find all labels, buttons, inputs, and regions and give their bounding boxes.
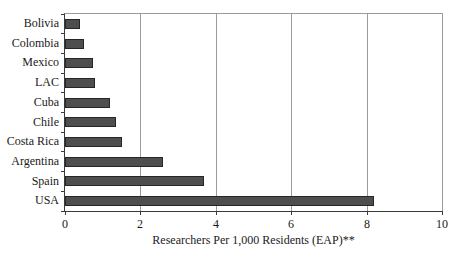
x-axis-tick-4 bbox=[216, 211, 217, 215]
bar-colombia bbox=[65, 39, 84, 49]
y-axis-tick-8 bbox=[61, 171, 65, 172]
x-axis-tick-0 bbox=[65, 211, 66, 215]
gridline-x-8 bbox=[367, 14, 368, 211]
gridline-x-6 bbox=[291, 14, 292, 211]
x-axis-tick-6 bbox=[291, 211, 292, 215]
x-axis-tick-label-8: 8 bbox=[352, 217, 382, 232]
y-axis-tick-7 bbox=[61, 151, 65, 152]
y-axis-label-lac: LAC bbox=[0, 73, 59, 93]
y-axis-tick-1 bbox=[61, 33, 65, 34]
y-axis-label-usa: USA bbox=[0, 191, 59, 211]
bar-chart: Researchers Per 1,000 Residents (EAP)** … bbox=[0, 0, 462, 257]
bar-spain bbox=[65, 176, 204, 186]
y-axis-tick-4 bbox=[61, 92, 65, 93]
bar-lac bbox=[65, 78, 95, 88]
y-axis-tick-5 bbox=[61, 112, 65, 113]
y-axis-tick-10 bbox=[61, 211, 65, 212]
y-axis-tick-9 bbox=[61, 191, 65, 192]
plot-area bbox=[64, 13, 443, 212]
y-axis-label-spain: Spain bbox=[0, 172, 59, 192]
bar-usa bbox=[65, 196, 374, 206]
y-axis-label-cuba: Cuba bbox=[0, 93, 59, 113]
x-axis-tick-label-2: 2 bbox=[125, 217, 155, 232]
y-axis-label-colombia: Colombia bbox=[0, 34, 59, 54]
y-axis-label-bolivia: Bolivia bbox=[0, 14, 59, 34]
bar-chile bbox=[65, 117, 116, 127]
y-axis-tick-0 bbox=[61, 14, 65, 15]
x-axis-tick-label-10: 10 bbox=[427, 217, 457, 232]
bar-cuba bbox=[65, 98, 110, 108]
y-axis-label-chile: Chile bbox=[0, 113, 59, 133]
x-axis-tick-8 bbox=[367, 211, 368, 215]
y-axis-label-mexico: Mexico bbox=[0, 53, 59, 73]
x-axis-tick-2 bbox=[140, 211, 141, 215]
y-axis-tick-2 bbox=[61, 53, 65, 54]
y-axis-label-costa-rica: Costa Rica bbox=[0, 132, 59, 152]
y-axis-label-argentina: Argentina bbox=[0, 152, 59, 172]
x-axis-tick-label-4: 4 bbox=[201, 217, 231, 232]
y-axis-tick-6 bbox=[61, 132, 65, 133]
x-axis-title: Researchers Per 1,000 Residents (EAP)** bbox=[64, 233, 443, 248]
bar-bolivia bbox=[65, 19, 80, 29]
bar-mexico bbox=[65, 58, 93, 68]
y-axis-tick-3 bbox=[61, 73, 65, 74]
x-axis-tick-label-6: 6 bbox=[276, 217, 306, 232]
bar-costa-rica bbox=[65, 137, 122, 147]
x-axis-tick-label-0: 0 bbox=[50, 217, 80, 232]
bar-argentina bbox=[65, 157, 163, 167]
gridline-x-4 bbox=[216, 14, 217, 211]
x-axis-tick-10 bbox=[442, 211, 443, 215]
